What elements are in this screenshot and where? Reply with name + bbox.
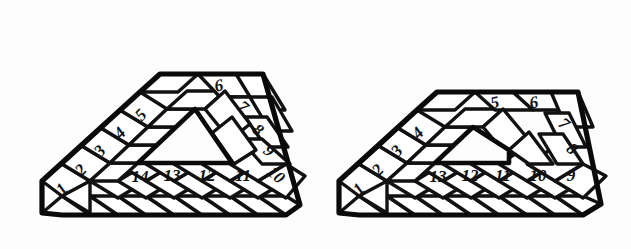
left-number-14: 14 [132, 167, 149, 186]
left-number-11: 11 [235, 166, 251, 185]
right-figure: 1 2 3 4 5 6 7 8 9 10 11 12 13 [331, 0, 631, 249]
right-number-12: 12 [462, 166, 480, 185]
left-figure: 1 2 3 4 5 6 7 8 9 10 11 12 13 14 [0, 0, 340, 249]
left-number-13: 13 [164, 166, 182, 185]
figure-canvas: 1 2 3 4 5 6 7 8 9 10 11 12 13 14 [0, 0, 631, 249]
right-number-10: 10 [530, 166, 548, 185]
right-number-13: 13 [430, 167, 448, 186]
left-number-12: 12 [199, 166, 217, 185]
right-number-9: 9 [567, 166, 576, 185]
right-number-11: 11 [495, 166, 511, 185]
